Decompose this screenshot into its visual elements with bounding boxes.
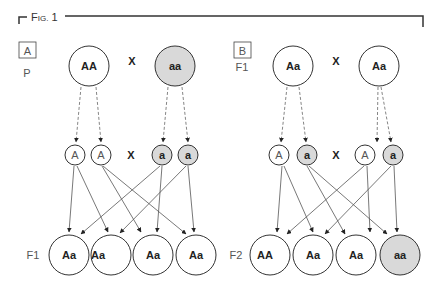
panel-b-meiosis-arrows <box>281 87 391 142</box>
panel-a-gamete-2-allele: A <box>97 149 105 161</box>
panel-a-meiosis-arrows <box>76 87 188 142</box>
panel-a-parent-1-genotype: AA <box>81 60 97 72</box>
panel-b-parent-generation-label: F1 <box>236 61 249 73</box>
panel-b-offspring-generation-label: F2 <box>230 249 243 261</box>
panel-a-parent-generation-label: P <box>23 67 30 79</box>
panel-b-label: B <box>239 45 246 57</box>
panel-b-cross-symbol-gametes: X <box>332 149 340 161</box>
panel-a-offspring-2-genotype: Aa <box>91 249 106 261</box>
panel-b-gamete-3-allele: A <box>361 149 369 161</box>
panel-b-offspring-1-genotype: AA <box>257 249 273 261</box>
panel-b-gamete-4-allele: a <box>390 149 397 161</box>
panel-a-offspring-generation-label: F1 <box>27 249 40 261</box>
panel-b-gamete-2-allele: a <box>304 149 311 161</box>
panel-a-cross-symbol-gametes: X <box>127 149 135 161</box>
panel-b-fertilization-arrows <box>277 166 397 234</box>
panel-a-offspring-4-genotype: Aa <box>189 249 204 261</box>
panel-a: A P AA X aa A A X a a <box>19 42 216 275</box>
panel-b-offspring-4-genotype: aa <box>394 249 407 261</box>
panel-a-parent-2-genotype: aa <box>169 60 182 72</box>
panel-b-offspring-2-genotype: Aa <box>306 249 321 261</box>
bracket-left <box>19 17 27 24</box>
panel-a-label: A <box>24 45 32 57</box>
panel-a-fertilization-arrows <box>69 166 194 234</box>
panel-a-offspring-1-genotype: Aa <box>62 249 77 261</box>
panel-a-gamete-1-allele: A <box>71 149 79 161</box>
panel-b-cross-symbol-parents: X <box>332 55 340 67</box>
panel-b-offspring-3-genotype: Aa <box>349 249 364 261</box>
panel-a-offspring-3-genotype: Aa <box>146 249 161 261</box>
panel-b-parent-2-genotype: Aa <box>372 60 387 72</box>
panel-b: B F1 Aa X Aa A a X A a <box>230 42 420 275</box>
panel-a-cross-symbol-parents: X <box>128 55 136 67</box>
bracket-right <box>65 16 423 27</box>
panel-b-parent-1-genotype: Aa <box>286 60 301 72</box>
panel-a-gamete-4-allele: a <box>185 149 192 161</box>
punnett-figure: FIG. 1 A P AA X aa A A X a a <box>0 0 439 291</box>
figure-title: FIG. 1 <box>31 11 58 23</box>
figure-title-frame: FIG. 1 <box>19 11 423 27</box>
panel-a-gamete-3-allele: a <box>159 149 166 161</box>
panel-b-gamete-1-allele: A <box>275 149 283 161</box>
